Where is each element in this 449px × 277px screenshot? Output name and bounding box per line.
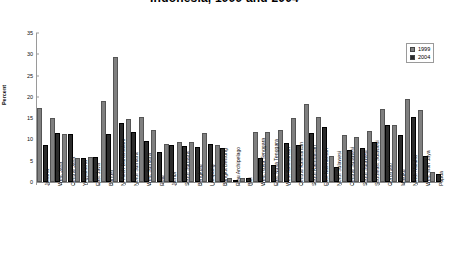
bar-1999: [253, 132, 258, 182]
bar-group: [163, 33, 176, 182]
x-tick-label: South Sumatra: [184, 151, 190, 186]
bar-1999: [418, 110, 423, 182]
x-tick-label: Bali: [247, 177, 253, 186]
x-tick-label: Papua: [438, 171, 444, 186]
bar-1999: [430, 172, 435, 182]
x-tick-label: West Nusa Tenggara: [260, 138, 266, 186]
bar-chart: Indonesia, 1999 and 2004 Percent 0510152…: [0, 0, 449, 277]
bar-1999: [392, 125, 397, 182]
bar-1999: [354, 137, 359, 182]
y-tick-label: 25: [20, 73, 33, 79]
bar-1999: [304, 104, 309, 182]
legend-label-2004: 2004: [418, 54, 430, 60]
x-axis-labels: JakartaWest JavaCentral JavaYogyakartaEa…: [36, 185, 442, 275]
bar-1999: [177, 142, 182, 182]
x-tick-label: Southeast Sulawesi: [374, 140, 380, 186]
x-tick-label: Bengkulu: [197, 164, 203, 186]
bar-1999: [291, 118, 296, 182]
bar-1999: [126, 119, 131, 182]
x-tick-label: Jambi: [171, 172, 177, 186]
x-tick-label: East Kalimantan: [323, 148, 329, 186]
y-tick-label: 5: [20, 158, 33, 164]
x-tick-label: West Irian Jaya: [425, 150, 431, 186]
x-tick-label: West Java: [57, 162, 63, 186]
legend-item-2004: 2004: [410, 54, 430, 60]
y-tick-label: 15: [20, 115, 33, 121]
bar-group: [151, 33, 164, 182]
x-tick-label: Yogyakarta: [82, 160, 88, 186]
bar-group: [202, 33, 215, 182]
bar-1999: [88, 157, 93, 182]
bar-group: [37, 33, 50, 182]
bar-group: [189, 33, 202, 182]
x-tick-label: West Kalimantan: [285, 147, 291, 186]
bar-1999: [151, 130, 156, 182]
legend-swatch-1999-icon: [410, 47, 415, 52]
x-tick-label: Banten: [108, 170, 114, 186]
x-tick-label: Gorontalo: [387, 163, 393, 186]
bar-group: [379, 33, 392, 182]
legend-label-1999: 1999: [418, 46, 430, 52]
bar-1999: [113, 57, 118, 182]
bar-group: [392, 33, 405, 182]
x-tick-label: North Sumatra: [133, 152, 139, 186]
x-tick-label: Central Sulawesi: [349, 147, 355, 186]
bar-1999: [215, 145, 220, 182]
bar-1999: [189, 142, 194, 182]
x-tick-label: East Nusa Tenggara: [273, 139, 279, 186]
bar-1999: [329, 156, 334, 182]
x-tick-label: North Sulawesi: [336, 151, 342, 186]
bar-1999: [37, 108, 42, 183]
x-tick-label: West Sumatra: [146, 153, 152, 186]
x-tick-label: South Sulawesi: [362, 150, 368, 186]
x-tick-label: North Maluku: [412, 155, 418, 186]
legend-swatch-2004-icon: [410, 55, 415, 60]
x-tick-label: Bangka Belitung: [222, 148, 228, 186]
bar-1999: [62, 134, 67, 182]
bar-1999: [227, 178, 232, 182]
bar-group: [49, 33, 62, 182]
y-tick-label: 10: [20, 136, 33, 142]
x-tick-label: Lampung: [209, 164, 215, 186]
bar-group: [87, 33, 100, 182]
bar-1999: [139, 117, 144, 182]
bar-group: [240, 33, 253, 182]
x-tick-label: Maluku: [400, 169, 406, 186]
y-tick-label: 35: [20, 30, 33, 36]
x-tick-label: Central Java: [70, 157, 76, 186]
bar-group: [100, 33, 113, 182]
y-axis-title: Percent: [1, 85, 7, 105]
chart-legend: 1999 2004: [406, 43, 434, 63]
x-tick-label: Riau Archipelago: [235, 147, 241, 186]
bar-1999: [50, 118, 55, 182]
chart-title: Indonesia, 1999 and 2004: [0, 0, 449, 5]
legend-item-1999: 1999: [410, 46, 430, 52]
y-tick-label: 30: [20, 51, 33, 57]
bar-1999: [380, 109, 385, 182]
bar-1999: [342, 135, 347, 182]
y-tick-label: 0: [20, 179, 33, 185]
x-tick-label: Central Kalimantan: [298, 142, 304, 186]
x-tick-label: N. Aceh Darussalam: [120, 139, 126, 186]
x-tick-label: Riau: [159, 175, 165, 186]
y-tick-label: 20: [20, 94, 33, 100]
bar-1999: [101, 101, 106, 182]
x-tick-label: Jakarta: [44, 169, 50, 186]
x-tick-label: South Kalimantan: [311, 145, 317, 186]
bar-1999: [265, 132, 270, 182]
x-tick-label: East Java: [95, 163, 101, 186]
